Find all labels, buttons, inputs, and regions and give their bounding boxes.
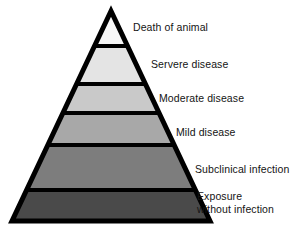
pyramid-figure: Death of animal Servere disease Moderate… [0, 0, 297, 235]
pyramid-label-exposure-line-1: Exposure [197, 190, 242, 203]
pyramid-label-death-of-animal: Death of animal [133, 21, 208, 34]
pyramid-label-subclinical-infection: Subclinical infection [195, 163, 289, 176]
pyramid-label-servere-disease: Servere disease [151, 58, 228, 71]
pyramid-graphic [0, 0, 297, 235]
pyramid-label-mild-disease: Mild disease [176, 126, 236, 139]
pyramid-label-exposure-line-2: without infection [197, 203, 274, 216]
pyramid-label-moderate-disease: Moderate disease [159, 92, 244, 105]
